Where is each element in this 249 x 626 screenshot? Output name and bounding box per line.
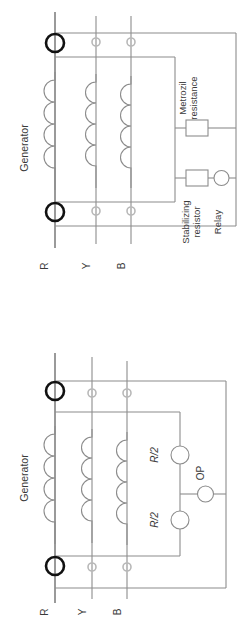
phase-label-y-bottom: Y [77, 608, 88, 615]
figure-page: Generator R Y B Metrozil resistance Stab… [0, 0, 249, 626]
circuit-diagram-top: Generator R Y B Metrozil resistance Stab… [0, 0, 249, 313]
generator-label-bottom: Generator [18, 454, 30, 502]
stabilizing-label-line2: resistor [191, 206, 202, 237]
op-relay-circle [198, 486, 214, 502]
resistor-lower-circle [171, 511, 189, 529]
resistor-lower-label: R/2 [149, 512, 160, 528]
metrosil-label-line1: Metrozil [177, 81, 188, 114]
phase-label-y-top: Y [81, 262, 92, 269]
generator-winding-b [116, 432, 127, 545]
phase-label-r-top: R [39, 262, 50, 269]
metrosil-label-line2: resistance [188, 76, 199, 119]
generator-winding-b [121, 76, 132, 188]
generator-winding-y [85, 74, 96, 188]
stabilizing-label-line1: Stabilizing [180, 200, 191, 243]
op-relay-label: OP [195, 465, 206, 480]
generator-winding-r [44, 426, 55, 544]
phase-label-b-top: B [116, 262, 127, 269]
circuit-diagram-bottom: Generator R Y B R/2 R/2 OP [0, 313, 249, 626]
metrosil-resistor-box [186, 120, 208, 136]
resistor-upper-label: R/2 [149, 447, 160, 463]
relay-label: Relay [212, 210, 223, 235]
relay-circle [214, 171, 229, 186]
stabilizing-resistor-box [186, 170, 208, 186]
phase-label-b-bottom: B [112, 608, 123, 615]
generator-label-top: Generator [18, 124, 30, 172]
generator-winding-y [82, 429, 93, 543]
generator-winding-r [44, 72, 55, 190]
phase-label-r-bottom: R [39, 608, 50, 615]
resistor-upper-circle [171, 446, 189, 464]
